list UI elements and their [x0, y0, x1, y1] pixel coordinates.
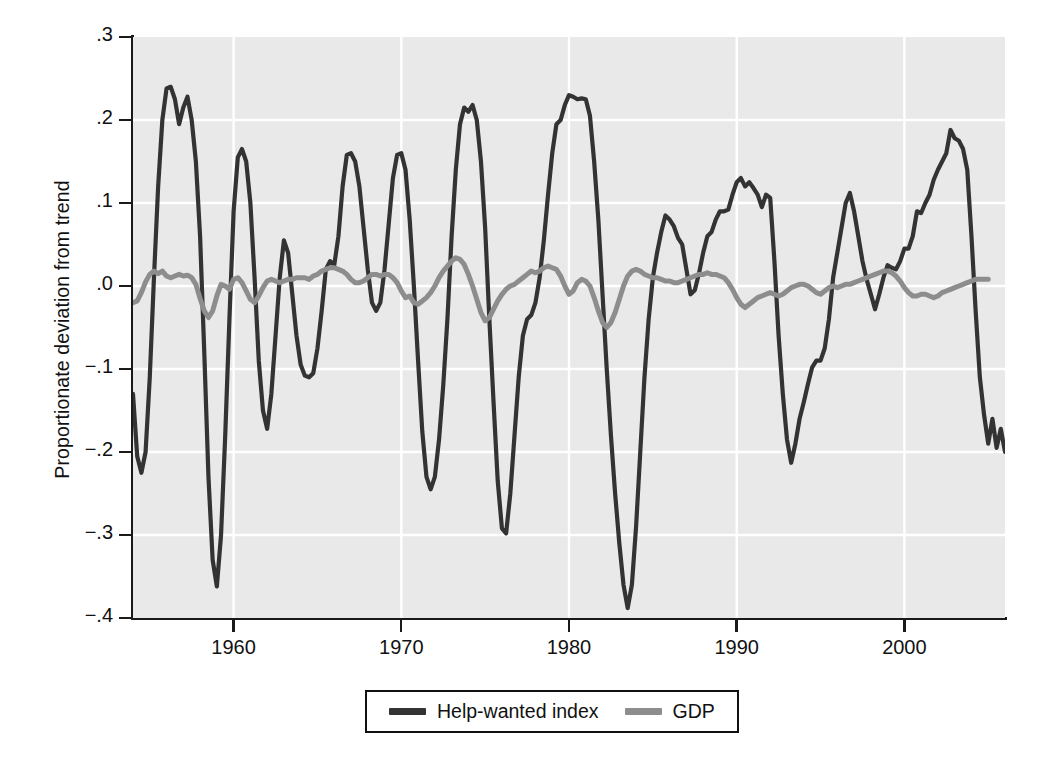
x-tick-mark	[400, 619, 402, 632]
plot-area	[133, 37, 1005, 618]
x-tick-mark	[232, 619, 234, 632]
y-tick-mark	[119, 36, 131, 38]
legend-item-help-wanted-index[interactable]: Help-wanted index	[389, 700, 599, 723]
x-tick-mark	[903, 619, 905, 632]
y-tick-mark	[119, 202, 131, 204]
legend-swatch-gdp	[625, 708, 662, 715]
legend-label-help-wanted-index: Help-wanted index	[437, 700, 599, 723]
legend-label-gdp: GDP	[673, 700, 715, 723]
legend-item-gdp[interactable]: GDP	[625, 700, 715, 723]
y-tick-mark	[119, 285, 131, 287]
y-axis-title: Proportionate deviation from trend	[51, 50, 74, 610]
plot-canvas	[133, 37, 1005, 618]
chart-legend: Help-wanted index GDP	[365, 690, 739, 733]
x-tick-mark	[568, 619, 570, 632]
y-tick-mark	[119, 119, 131, 121]
y-tick-mark	[119, 368, 131, 370]
x-tick-mark	[735, 619, 737, 632]
chart-figure: Proportionate deviation from trend −.4−.…	[0, 0, 1040, 764]
y-tick-mark	[119, 617, 131, 619]
y-tick-mark	[119, 534, 131, 536]
y-tick-mark	[119, 451, 131, 453]
legend-swatch-help-wanted-index	[389, 708, 426, 715]
